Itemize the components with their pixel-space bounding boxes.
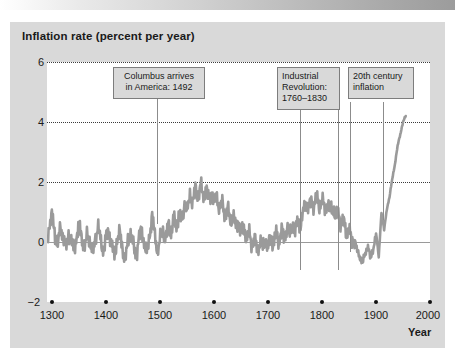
callout-industrial-line3: 1760–1830 [282, 93, 335, 104]
x-axis-label: Year [408, 326, 431, 338]
top-decorative-bar [0, 0, 455, 10]
xtick-label-1900: 1900 [353, 309, 399, 321]
ytick-label-2: 2 [18, 176, 44, 188]
ytick-label-neg2: −2 [14, 296, 40, 308]
xtick-dot-1700 [266, 300, 270, 304]
xtick-dot-1300 [50, 300, 54, 304]
xtick-label-1800: 1800 [299, 309, 345, 321]
xtick-label-1500: 1500 [137, 309, 183, 321]
callout-industrial-revolution: Industrial Revolution: 1760–1830 [277, 67, 340, 110]
chart-title: Inflation rate (percent per year) [22, 30, 195, 42]
xtick-dot-1800 [320, 300, 324, 304]
callout-industrial-line1: Industrial [282, 71, 335, 82]
xtick-dot-1500 [158, 300, 162, 304]
xtick-label-1400: 1400 [83, 309, 129, 321]
leader-line-industrial-end [338, 110, 339, 270]
leader-line-industrial-start [300, 110, 301, 270]
callout-20th-century-line1: 20th century [353, 71, 409, 82]
leader-line-20th-century-left [350, 102, 351, 252]
callout-columbus: Columbus arrives in America: 1492 [113, 67, 205, 99]
callout-20th-century-line2: inflation [353, 82, 409, 93]
inflation-series-line [47, 116, 406, 263]
callout-20th-century-inflation: 20th century inflation [348, 67, 414, 99]
xtick-dot-1900 [374, 300, 378, 304]
xtick-dot-1400 [104, 300, 108, 304]
ytick-label-6: 6 [18, 56, 44, 68]
leader-line-columbus [157, 99, 158, 224]
callout-industrial-line2: Revolution: [282, 82, 335, 93]
xtick-dot-2000 [428, 300, 432, 304]
callout-columbus-line2: in America: 1492 [118, 82, 200, 93]
xtick-dot-1600 [212, 300, 216, 304]
xtick-label-1300: 1300 [29, 309, 75, 321]
ytick-label-4: 4 [18, 116, 44, 128]
xtick-label-2000: 2000 [405, 309, 451, 321]
xtick-label-1700: 1700 [245, 309, 291, 321]
ytick-label-0: 0 [18, 236, 44, 248]
xtick-label-1600: 1600 [191, 309, 237, 321]
callout-columbus-line1: Columbus arrives [118, 71, 200, 82]
leader-line-20th-century-right [383, 102, 384, 220]
